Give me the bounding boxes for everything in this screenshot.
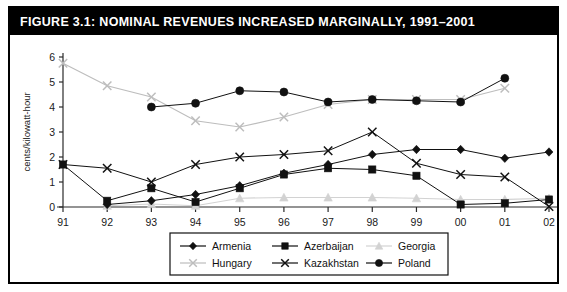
x-tick-label: 01: [499, 216, 511, 228]
series-azerbaijan: [59, 161, 552, 208]
legend-label: Hungary: [212, 257, 252, 269]
y-tick-label: 6: [49, 51, 55, 63]
chart-axes: [57, 53, 557, 207]
legend-label: Kazakhstan: [304, 257, 359, 269]
figure-title-bar: FIGURE 3.1: NOMINAL REVENUES INCREASED M…: [10, 8, 557, 35]
x-tick-label: 99: [411, 216, 423, 228]
y-tick-label: 4: [49, 101, 55, 113]
y-tick-label: 0: [49, 201, 55, 213]
chart-plot-area: 0123456cents/kilowatt-hour91929394959697…: [10, 35, 557, 282]
y-axis-title: cents/kilowatt-hour: [21, 92, 32, 171]
x-tick-label: 00: [455, 216, 467, 228]
legend-label: Georgia: [398, 240, 436, 252]
x-tick-label: 98: [366, 216, 378, 228]
x-tick-label: 96: [278, 216, 290, 228]
legend-label: Armenia: [212, 240, 251, 252]
x-tick-label: 91: [57, 216, 69, 228]
x-axis-ticks: 919293949596979899000102: [57, 207, 555, 228]
page-title: FIGURE 3.1: NOMINAL REVENUES INCREASED M…: [20, 15, 475, 29]
x-tick-label: 93: [146, 216, 158, 228]
x-tick-label: 92: [101, 216, 113, 228]
y-tick-label: 2: [49, 151, 55, 163]
line-chart: 0123456cents/kilowatt-hour91929394959697…: [10, 35, 561, 290]
legend-label: Poland: [398, 257, 431, 269]
x-tick-label: 95: [234, 216, 246, 228]
chart-legend: ArmeniaAzerbaijanGeorgiaHungaryKazakhsta…: [170, 233, 448, 275]
y-tick-label: 5: [49, 76, 55, 88]
y-tick-label: 3: [49, 126, 55, 138]
x-tick-label: 02: [543, 216, 555, 228]
figure-frame: FIGURE 3.1: NOMINAL REVENUES INCREASED M…: [8, 6, 559, 284]
x-tick-label: 97: [322, 216, 334, 228]
figure-container: FIGURE 3.1: NOMINAL REVENUES INCREASED M…: [0, 0, 567, 292]
x-tick-label: 94: [190, 216, 202, 228]
y-axis-ticks: 0123456: [49, 51, 63, 213]
legend-label: Azerbaijan: [304, 240, 354, 252]
y-tick-label: 1: [49, 176, 55, 188]
series-poland: [147, 74, 508, 111]
